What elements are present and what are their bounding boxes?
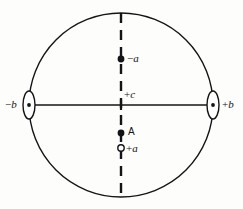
circle-diagram: [0, 0, 243, 209]
label-point-a: A: [128, 127, 135, 137]
minus-a-filled-dot: [118, 56, 125, 63]
label-plus-a: +a: [126, 143, 138, 154]
figure-container: −b +b −a +c A +a: [0, 0, 243, 209]
label-minus-a: −a: [127, 53, 139, 64]
label-plus-c: +c: [124, 89, 135, 100]
minus-b-center-dot: [27, 103, 31, 107]
label-minus-b: −b: [5, 99, 17, 110]
label-plus-b: +b: [222, 99, 234, 110]
plus-b-center-dot: [211, 103, 215, 107]
plus-a-open-circle: [118, 145, 124, 151]
point-a-filled-dot: [118, 130, 125, 137]
